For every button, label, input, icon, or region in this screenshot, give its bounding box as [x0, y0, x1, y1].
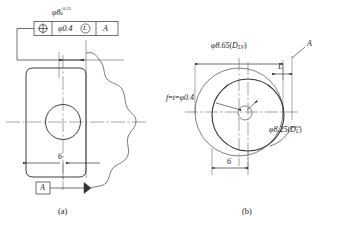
inner-diameter-value: φ8.25: [269, 125, 287, 134]
caption-b: (b): [242, 206, 252, 216]
right-datum-leader: [292, 47, 305, 58]
fcf-material-condition: L: [83, 25, 87, 32]
right-center-hole: [238, 106, 252, 120]
technical-drawing-canvas: φ8+0.250 φ0.4 L A 6 A φ8.65(DLV) L A f=t…: [0, 0, 339, 227]
position-symbol-icon: [38, 23, 48, 33]
left-datum-feature-label: A: [40, 184, 45, 192]
outer-diameter-value: φ8.65: [211, 41, 229, 50]
outer-diameter-label: φ8.65(DLV): [211, 42, 247, 51]
right-width-value: 6: [227, 158, 231, 166]
left-view-group: [6, 22, 148, 195]
left-dimension-value: φ8: [52, 8, 60, 17]
left-dimension-tolerance: +0.250: [60, 7, 71, 16]
tolerance-zone-note: f=t=φ0.4: [166, 94, 194, 102]
fcf-tolerance-value: φ0.4: [58, 25, 72, 33]
inner-diameter-label: φ8.25(DL): [269, 126, 302, 135]
lower-tolerance: 0: [60, 11, 62, 16]
left-part-outline: [26, 68, 86, 177]
caption-a: (a): [58, 206, 67, 216]
right-datum-label: A: [307, 40, 312, 48]
drawing-geometry: [0, 0, 339, 227]
frame-leader-line: [17, 29, 84, 61]
tolerance-note-value: φ0.4: [180, 93, 194, 102]
offset-label-L: L: [278, 63, 282, 71]
break-profile-outline: [86, 53, 136, 188]
fcf-datum-reference: A: [103, 25, 108, 33]
right-view-group: [185, 47, 305, 175]
left-width-value: 6: [58, 153, 62, 161]
left-dimension-phi8: φ8+0.250: [52, 7, 71, 17]
